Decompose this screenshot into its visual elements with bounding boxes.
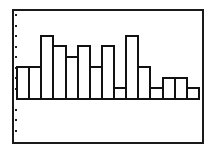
y-tick-mark (15, 119, 17, 121)
histogram-bar (186, 87, 200, 100)
y-tick-mark (15, 130, 17, 132)
histogram-plot (0, 0, 213, 150)
y-tick-mark (15, 56, 17, 58)
y-tick-mark (15, 46, 17, 48)
y-tick-mark (15, 14, 17, 16)
y-tick-mark (15, 35, 17, 37)
y-tick-mark (15, 109, 17, 111)
y-tick-mark (15, 25, 17, 27)
